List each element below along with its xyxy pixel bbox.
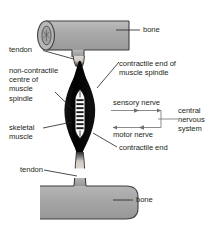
label-tendon-bottom: tendon	[20, 165, 43, 174]
leader-contractile-end-top	[97, 62, 119, 88]
label-tendon-top: tendon	[9, 45, 32, 54]
label-sensory-nerve: sensory nerve	[113, 98, 160, 107]
label-non-contractile-centre: non-contractile centre of muscle spindle	[9, 66, 58, 103]
label-contractile-end: contractile end	[119, 143, 168, 152]
bone-bottom	[40, 178, 138, 219]
label-motor-nerve: motor nerve	[113, 130, 153, 139]
label-bone-top: bone	[143, 25, 160, 34]
label-contractile-end-of-muscle-spindle: contractile end of muscle spindle	[119, 59, 176, 77]
label-central-nervous-system: central nervous system	[178, 106, 205, 134]
sensory-nerve-arrow	[111, 108, 161, 112]
bone-top	[38, 21, 130, 57]
nerve-arrows	[111, 108, 178, 129]
muscle-spindle	[75, 90, 85, 139]
label-skeletal-muscle: skeletal muscle	[9, 123, 34, 141]
label-bone-bottom: bone	[136, 195, 153, 204]
leader-tendon-bottom	[44, 170, 77, 176]
tendon-bottom	[75, 152, 84, 169]
muscle-spindle-diagram: bone tendon non-contractile centre of mu…	[0, 0, 214, 226]
leader-tendon-top	[43, 51, 74, 60]
